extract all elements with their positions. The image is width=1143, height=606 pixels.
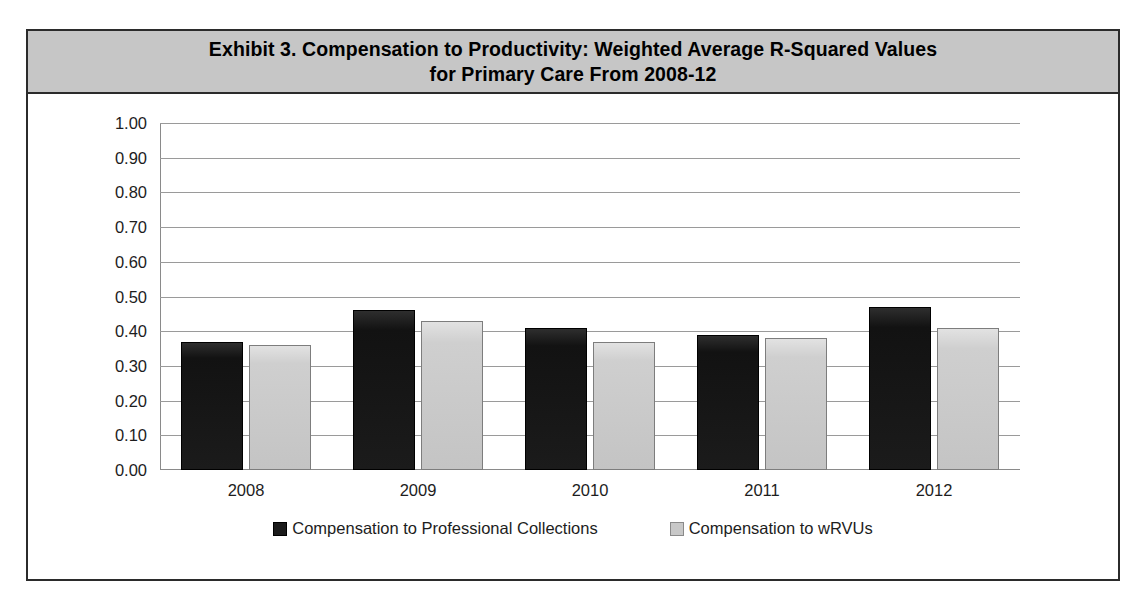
gridline (160, 192, 1020, 193)
exhibit-frame: Exhibit 3. Compensation to Productivity:… (26, 29, 1120, 581)
bar-2009-series-2 (421, 321, 483, 470)
y-axis-tick-label: 0.70 (115, 218, 147, 237)
chart-body: 1.000.900.800.700.600.500.400.300.200.10… (28, 94, 1118, 579)
bar-2010-series-2 (593, 342, 655, 470)
y-axis-tick-label: 0.80 (115, 183, 147, 202)
bar-2011-series-2 (765, 338, 827, 470)
gridline (160, 123, 1020, 124)
bar-2009-series-1 (353, 310, 415, 470)
y-axis-tick-label: 0.50 (115, 287, 147, 306)
y-axis-tick-label: 0.90 (115, 148, 147, 167)
x-axis-tick-label: 2009 (400, 481, 437, 500)
exhibit-screenshot: Exhibit 3. Compensation to Productivity:… (0, 0, 1143, 606)
light-square-icon (670, 522, 684, 536)
y-axis-tick-label: 0.40 (115, 322, 147, 341)
legend-item: Compensation to wRVUs (670, 519, 873, 538)
bar-2008-series-1 (181, 342, 243, 470)
bar-2011-series-1 (697, 335, 759, 470)
plot-area: 1.000.900.800.700.600.500.400.300.200.10… (160, 123, 1020, 470)
page-title: Exhibit 3. Compensation to Productivity:… (169, 37, 977, 86)
bar-2012-series-1 (869, 307, 931, 470)
exhibit-title-band: Exhibit 3. Compensation to Productivity:… (28, 31, 1118, 94)
y-axis-tick-label: 0.30 (115, 356, 147, 375)
dark-square-icon (273, 522, 287, 536)
y-axis-tick-label: 0.10 (115, 426, 147, 445)
y-axis-tick-label: 1.00 (115, 114, 147, 133)
gridline (160, 227, 1020, 228)
title-line-2: for Primary Care From 2008-12 (209, 62, 937, 86)
chart-legend: Compensation to Professional Collections… (28, 519, 1118, 538)
title-line-1: Exhibit 3. Compensation to Productivity:… (209, 37, 937, 61)
gridline (160, 158, 1020, 159)
gridline (160, 297, 1020, 298)
y-axis-tick-label: 0.00 (115, 461, 147, 480)
bar-2012-series-2 (937, 328, 999, 470)
legend-item-label: Compensation to wRVUs (689, 519, 873, 538)
x-axis-tick-label: 2010 (572, 481, 609, 500)
gridline (160, 262, 1020, 263)
legend-item: Compensation to Professional Collections (273, 519, 597, 538)
bar-2010-series-1 (525, 328, 587, 470)
x-axis-tick-label: 2012 (916, 481, 953, 500)
legend-item-label: Compensation to Professional Collections (292, 519, 597, 538)
bar-2008-series-2 (249, 345, 311, 470)
y-axis-tick-label: 0.60 (115, 252, 147, 271)
x-axis-tick-label: 2008 (228, 481, 265, 500)
x-axis-tick-label: 2011 (744, 481, 779, 500)
y-axis-tick-label: 0.20 (115, 391, 147, 410)
